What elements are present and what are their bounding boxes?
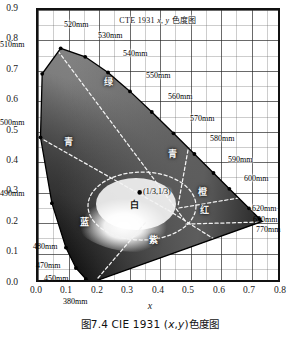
color-region-orange: 橙: [198, 188, 207, 197]
xtick-0.6: 0.6: [204, 285, 234, 295]
figure-caption: 图7.4 CIE 1931 (x,y)色度图: [0, 316, 300, 331]
xtick-0.7: 0.7: [234, 285, 264, 295]
xtick-0.2: 0.2: [82, 285, 112, 295]
wavelength-label-540: 540mm: [123, 50, 147, 59]
wavelength-label-650: 650mm: [253, 216, 277, 225]
wavelength-label-620: 620mm: [252, 205, 276, 214]
white-point-marker: [137, 190, 142, 195]
wavelength-label-490: 490mm: [0, 190, 24, 199]
xtick-0.5: 0.5: [173, 285, 203, 295]
wavelength-label-520: 520mm: [64, 21, 88, 30]
caption-prefix: 图7.4 CIE 1931 (: [81, 318, 169, 330]
gamut-fill: [38, 10, 280, 282]
xtick-0.8: 0.8: [265, 285, 295, 295]
ytick-0.0: 0.0: [0, 277, 18, 287]
wavelength-label-590: 590mm: [228, 156, 252, 165]
chart-title-suffix: 色度图: [169, 16, 196, 25]
wavelength-label-600: 600mm: [244, 175, 268, 184]
wavelength-label-550: 550mm: [146, 72, 170, 81]
xtick-0.1: 0.1: [51, 285, 81, 295]
ytick-0.6: 0.6: [0, 94, 18, 104]
wavelength-label-530: 530mm: [98, 32, 122, 41]
wavelength-label-380: 380mm: [63, 298, 87, 307]
wavelength-label-770: 770mm: [256, 226, 280, 235]
figure-container: CTE 1931 x, y 色度图 520mm 530mm 540mm 550m…: [0, 0, 300, 338]
xtick-0.3: 0.3: [112, 285, 142, 295]
ytick-0.9: 0.9: [0, 3, 18, 13]
wavelength-label-480: 480mm: [33, 243, 57, 252]
wavelength-label-580: 580mm: [210, 135, 234, 144]
ytick-0.1: 0.1: [0, 246, 18, 256]
wavelength-label-510: 510mm: [0, 41, 24, 50]
caption-suffix: )色度图: [185, 318, 220, 330]
color-region-red: 红: [200, 206, 209, 215]
wavelength-label-470: 470mm: [36, 262, 60, 271]
ytick-0.4: 0.4: [0, 155, 18, 165]
color-region-blue: 蓝: [80, 218, 89, 227]
wavelength-label-450: 450mm: [44, 275, 68, 284]
wavelength-label-570: 570mm: [190, 115, 214, 124]
white-point-label: (1/3,1/3): [143, 188, 171, 196]
chart-plot-area: CTE 1931 x, y 色度图 520mm 530mm 540mm 550m…: [36, 8, 280, 282]
color-region-purple: 紫: [149, 236, 158, 245]
xtick-0.0: 0.0: [21, 285, 51, 295]
xtick-0.4: 0.4: [143, 285, 173, 295]
chromaticity-gamut: [38, 10, 280, 282]
color-region-cyan: 青: [64, 138, 73, 147]
ytick-0.7: 0.7: [0, 64, 18, 74]
chart-title-prefix: CTE 1931: [119, 16, 157, 25]
wavelength-label-560: 560mm: [168, 93, 192, 102]
color-region-cyan-2: 青: [168, 150, 177, 159]
color-region-green: 绿: [104, 78, 113, 87]
color-region-white: 白: [130, 201, 139, 210]
x-axis-title: x: [0, 300, 300, 311]
wavelength-label-500: 500mm: [0, 119, 24, 128]
ytick-0.2: 0.2: [0, 216, 18, 226]
